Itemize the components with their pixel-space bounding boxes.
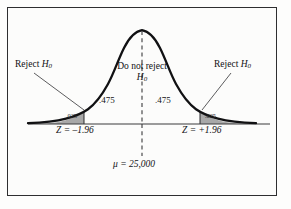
h-subscript-center: 0 [144,75,148,83]
reject-left-text: Reject [15,59,42,69]
reject-h0-label-left: Reject H0 [15,60,52,71]
area-label-left: .475 [99,96,115,105]
area-label-right: .475 [155,96,171,105]
leader-line-right [202,73,231,110]
mean-value-label: μ = 25,000 [113,160,155,170]
h-symbol-left: H [42,59,49,69]
normal-curve-figure: Reject H0 Reject H0 Do not reject H0 .47… [0,0,291,209]
z-value-label-left: Z = –1.96 [56,126,94,136]
z-value-label-right: Z = +1.96 [182,126,221,136]
do-not-reject-h0-label: Do not reject H0 [108,62,176,84]
leader-line-left [34,73,84,110]
h-subscript-right: 0 [248,62,252,70]
do-not-reject-text: Do not reject [117,61,167,71]
reject-right-text: Reject [214,59,241,69]
tail-area-label-right: .025 [205,113,216,120]
h-symbol-center: H [137,72,144,82]
h-symbol-right: H [241,59,248,69]
distribution-plot [0,0,291,209]
do-not-reject-h-symbol: H0 [108,73,176,84]
reject-h0-label-right: Reject H0 [214,60,251,71]
h-subscript-left: 0 [49,62,53,70]
tail-area-label-left: .025 [66,113,77,120]
